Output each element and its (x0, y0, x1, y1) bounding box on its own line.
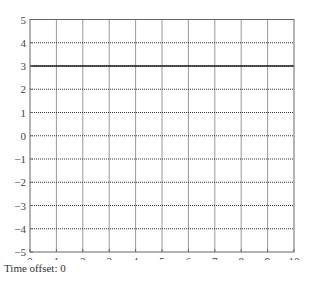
x-tick-label: 0 (27, 255, 33, 260)
x-tick-label: 6 (186, 255, 192, 260)
line-chart: 543210−1−2−3−4−5 012345678910 (0, 0, 312, 260)
y-tick-label: 4 (21, 37, 27, 49)
y-tick-label: 0 (21, 130, 27, 142)
x-tick-label: 4 (133, 255, 139, 260)
y-tick-label: −2 (14, 176, 26, 188)
y-tick-label: −1 (14, 153, 26, 165)
x-tick-label: 10 (289, 255, 301, 260)
x-tick-label: 7 (212, 255, 218, 260)
y-tick-label: −5 (14, 246, 26, 258)
x-tick-label: 2 (80, 255, 86, 260)
x-tick-label: 3 (106, 255, 112, 260)
x-tick-label: 5 (159, 255, 165, 260)
y-tick-label: −4 (14, 223, 26, 235)
x-tick-label: 9 (265, 255, 271, 260)
y-tick-label: 1 (21, 107, 27, 119)
x-axis-ticks: 012345678910 (27, 249, 300, 260)
x-tick-label: 8 (238, 255, 244, 260)
y-tick-label: 3 (21, 60, 27, 72)
time-offset-label: Time offset: 0 (4, 262, 66, 274)
y-tick-label: 2 (21, 83, 27, 95)
y-tick-label: 5 (21, 14, 27, 26)
x-tick-label: 1 (54, 255, 60, 260)
y-tick-label: −3 (14, 200, 26, 212)
grid-lines (30, 20, 294, 253)
